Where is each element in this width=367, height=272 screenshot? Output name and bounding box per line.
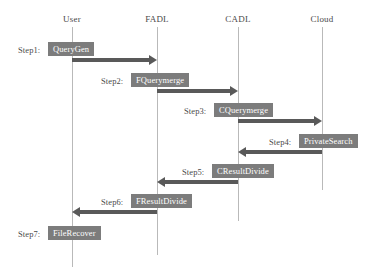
lifeline-cadl bbox=[238, 27, 239, 221]
lifeline-label-cadl: CADL bbox=[225, 14, 250, 24]
operation-box-filerecover: FileRecover bbox=[48, 226, 101, 240]
step-label-5: Step5: bbox=[182, 167, 204, 177]
message-arrow-step2 bbox=[157, 89, 231, 93]
lifeline-label-user: User bbox=[63, 14, 81, 24]
lifeline-label-cloud: Cloud bbox=[310, 14, 333, 24]
operation-box-cquerymerge: CQuerymerge bbox=[214, 103, 273, 117]
message-arrow-step6 bbox=[79, 210, 157, 214]
message-arrow-step3 bbox=[238, 119, 315, 123]
step-label-6: Step6: bbox=[101, 197, 123, 207]
operation-box-fquerymerge: FQuerymerge bbox=[131, 73, 189, 87]
step-label-3: Step3: bbox=[184, 106, 206, 116]
step-label-7: Step7: bbox=[18, 229, 40, 239]
lifeline-fadl bbox=[157, 27, 158, 255]
step-label-1: Step1: bbox=[18, 45, 40, 55]
operation-box-fresultdivide: FResultDivide bbox=[131, 194, 192, 208]
lifeline-cloud bbox=[322, 27, 323, 190]
operation-box-cresultdivide: CResultDivide bbox=[212, 164, 274, 178]
message-arrow-step5 bbox=[164, 180, 238, 184]
message-arrow-step1 bbox=[72, 58, 150, 62]
step-label-2: Step2: bbox=[101, 76, 123, 86]
step-label-4: Step4: bbox=[269, 137, 291, 147]
message-arrow-step4 bbox=[245, 150, 322, 154]
operation-box-querygen: QueryGen bbox=[48, 42, 94, 56]
operation-box-privatesearch: PrivateSearch bbox=[299, 134, 358, 148]
lifeline-label-fadl: FADL bbox=[145, 14, 169, 24]
sequence-diagram: User FADL CADL Cloud Step1: QueryGen Ste… bbox=[0, 0, 367, 272]
